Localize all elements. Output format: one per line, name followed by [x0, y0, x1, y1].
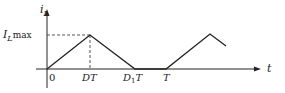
x-axis-label: t: [267, 62, 272, 75]
d1t-label: D1T: [122, 72, 144, 85]
inductor-current-diagram: iL ILmax 0 DT D1T T t: [0, 0, 285, 93]
current-waveform: [47, 34, 226, 69]
x-axis-arrow-icon: [254, 67, 261, 72]
period-label: T: [163, 72, 171, 83]
dt-label: DT: [81, 72, 98, 83]
y-axis-label: iL: [40, 3, 49, 18]
origin-label: 0: [49, 72, 55, 83]
peak-label: ILmax: [2, 28, 32, 43]
